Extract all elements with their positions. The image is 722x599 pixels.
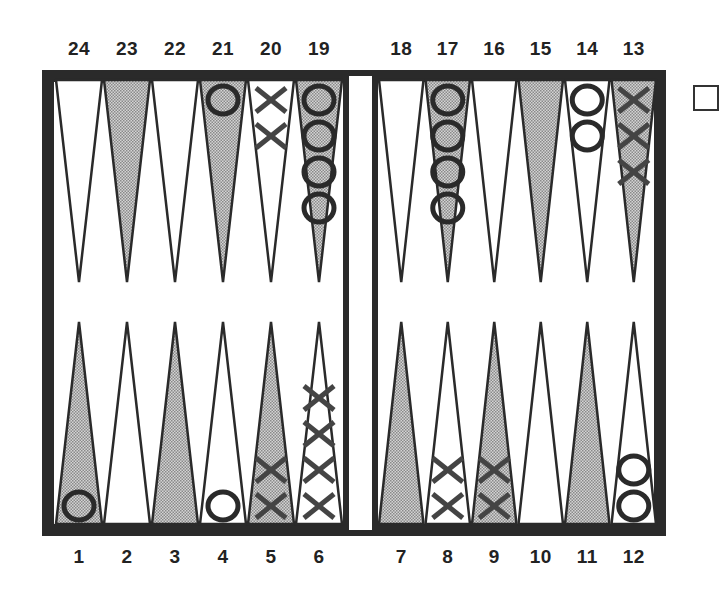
backgammon-board <box>0 0 722 599</box>
bar[interactable] <box>345 76 375 530</box>
doubling-cube[interactable] <box>693 85 719 111</box>
